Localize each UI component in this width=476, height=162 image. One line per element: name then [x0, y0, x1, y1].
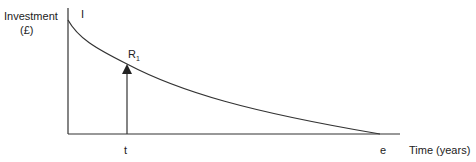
point-label-sub: 1 [136, 55, 140, 62]
initial-value-label: I [81, 8, 84, 20]
point-label-main: R [128, 48, 136, 60]
y-axis-label-line2: (£) [20, 24, 33, 36]
t-label: t [124, 144, 127, 156]
y-axis-label-line1: Investment [4, 10, 58, 22]
e-label: e [380, 144, 386, 156]
diagram-canvas [0, 0, 476, 162]
point-label: R1 [128, 48, 140, 65]
depreciation-curve [68, 20, 380, 134]
x-axis-label: Time (years) [409, 144, 470, 156]
